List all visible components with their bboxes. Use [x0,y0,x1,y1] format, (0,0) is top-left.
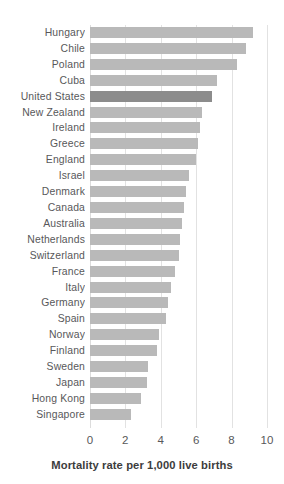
bar-australia [90,218,182,229]
bar-row [90,25,267,41]
category-label-israel: Israel [0,168,85,184]
category-label-norway: Norway [0,327,85,343]
category-label-hong-kong: Hong Kong [0,391,85,407]
bar-row [90,264,267,280]
bar-row [90,152,267,168]
category-label-australia: Australia [0,216,85,232]
x-tick-label-10: 10 [260,434,273,446]
x-tick-label-2: 2 [122,434,129,446]
bar-row [90,327,267,343]
bar-row [90,168,267,184]
bar-sweden [90,361,148,372]
category-label-hungary: Hungary [0,25,85,41]
x-tick-label-0: 0 [87,434,94,446]
x-tick-label-4: 4 [157,434,164,446]
category-axis-labels: HungaryChilePolandCubaUnited StatesNew Z… [0,25,85,423]
bar-germany [90,297,168,308]
bar-ireland [90,122,200,133]
bar-row [90,120,267,136]
bar-netherlands [90,234,180,245]
category-label-ireland: Ireland [0,120,85,136]
bar-rows [90,25,267,423]
bar-singapore [90,409,131,420]
bar-row [90,359,267,375]
bar-israel [90,170,189,181]
bar-hong-kong [90,393,141,404]
category-label-england: England [0,152,85,168]
mortality-rate-bar-chart: HungaryChilePolandCubaUnited StatesNew Z… [0,0,284,484]
category-label-greece: Greece [0,136,85,152]
bar-poland [90,59,237,70]
bar-row [90,311,267,327]
bar-finland [90,345,157,356]
bar-italy [90,282,171,293]
bar-row [90,407,267,423]
category-label-united-states: United States [0,89,85,105]
bar-greece [90,138,198,149]
bar-japan [90,377,147,388]
category-label-spain: Spain [0,311,85,327]
bar-cuba [90,75,217,86]
category-label-germany: Germany [0,295,85,311]
bar-row [90,391,267,407]
bar-row [90,295,267,311]
bar-row [90,136,267,152]
category-label-singapore: Singapore [0,407,85,423]
category-label-new-zealand: New Zealand [0,105,85,121]
x-axis-title: Mortality rate per 1,000 live births [0,459,284,471]
bar-row [90,375,267,391]
category-label-canada: Canada [0,200,85,216]
bar-row [90,232,267,248]
category-label-sweden: Sweden [0,359,85,375]
gridline-10 [267,25,268,428]
bar-row [90,89,267,105]
bar-row [90,216,267,232]
bar-row [90,280,267,296]
bar-spain [90,313,166,324]
x-axis-tick-labels: 0246810 [90,434,267,452]
category-label-poland: Poland [0,57,85,73]
category-label-denmark: Denmark [0,184,85,200]
bar-united-states [90,91,212,102]
category-label-italy: Italy [0,280,85,296]
category-label-cuba: Cuba [0,73,85,89]
category-label-finland: Finland [0,343,85,359]
bar-row [90,200,267,216]
x-tick-label-6: 6 [193,434,200,446]
bar-row [90,184,267,200]
category-label-chile: Chile [0,41,85,57]
category-label-france: France [0,264,85,280]
bar-france [90,266,175,277]
bar-row [90,248,267,264]
bar-chile [90,43,246,54]
bar-canada [90,202,184,213]
category-label-netherlands: Netherlands [0,232,85,248]
category-label-japan: Japan [0,375,85,391]
bar-england [90,154,196,165]
bar-norway [90,329,159,340]
bar-hungary [90,27,253,38]
bar-switzerland [90,250,179,261]
bar-row [90,41,267,57]
bar-row [90,105,267,121]
category-label-switzerland: Switzerland [0,248,85,264]
bar-row [90,57,267,73]
x-tick-label-8: 8 [228,434,235,446]
bar-denmark [90,186,186,197]
bar-new-zealand [90,107,202,118]
plot-area [90,25,267,438]
bar-row [90,343,267,359]
bar-row [90,73,267,89]
